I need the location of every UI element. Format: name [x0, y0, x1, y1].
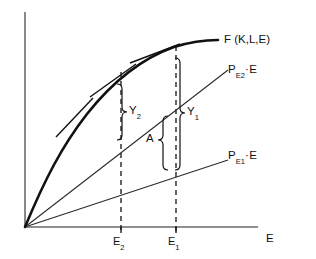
- pe1-tail: ·E: [245, 149, 258, 161]
- curve-label-price-line-low: PE1·E: [228, 150, 257, 164]
- curve-label-price-line-high: PE2·E: [228, 64, 257, 78]
- curve-label-args: (K,L,E): [234, 33, 270, 45]
- price-line-PE2: [25, 70, 228, 227]
- bracket-Y2: [117, 84, 127, 140]
- bracket-label-Y2: Y2: [129, 105, 141, 119]
- y2-base: Y: [129, 104, 137, 116]
- pe1-base: P: [228, 149, 236, 161]
- y2-subscript: 2: [137, 112, 141, 121]
- bracket-label-A: A: [146, 133, 154, 145]
- pe1-subscript: E1: [236, 157, 245, 166]
- bracket-label-Y1: Y1: [187, 106, 199, 120]
- pe2-tail: ·E: [245, 63, 258, 75]
- production-function-figure: F (K,L,E) PE2·E PE1·E Y2 Y1 A E2 E1 E: [0, 0, 316, 259]
- bracket-A: [158, 116, 168, 170]
- curve-label-production-function: F (K,L,E): [224, 34, 270, 46]
- x-axis-label: E: [266, 233, 274, 245]
- y1-subscript: 1: [195, 113, 199, 122]
- y1-base: Y: [187, 105, 195, 117]
- tangent-mark-3: [130, 44, 180, 63]
- pe2-subscript: E2: [236, 71, 245, 80]
- pe2-base: P: [228, 63, 236, 75]
- e2-subscript: 2: [120, 243, 124, 252]
- price-line-PE1: [25, 160, 228, 227]
- curve-label-F: F: [224, 33, 231, 45]
- axis-ticks-group: [121, 227, 176, 233]
- a-base: A: [146, 132, 154, 144]
- tangent-marks-group: [56, 44, 180, 137]
- tick-label-E1: E1: [168, 236, 180, 250]
- e1-subscript: 1: [175, 243, 179, 252]
- tick-label-E2: E2: [113, 236, 125, 250]
- tangent-mark-2: [90, 64, 136, 97]
- price-lines-group: [25, 70, 228, 227]
